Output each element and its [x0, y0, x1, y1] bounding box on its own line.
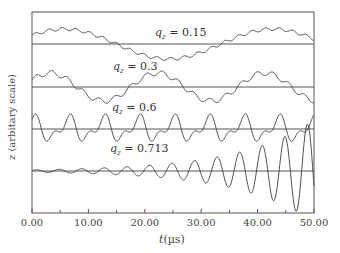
x-tick-label: 40.00: [243, 217, 272, 228]
x-axis-label: t(µs): [159, 233, 185, 246]
plot-frame: [32, 12, 314, 213]
label-qz-0-6: qz = 0.6: [112, 101, 156, 116]
x-tick-label: 0.00: [21, 217, 43, 228]
label-qz-0-3: qz = 0.3: [113, 60, 157, 75]
label-qz-0-713: qz = 0.713: [110, 142, 168, 157]
x-tick-label: 20.00: [130, 217, 159, 228]
traces: [32, 28, 314, 212]
y-axis-label: z (arbitary scale): [6, 74, 17, 160]
trace-q-z-0-713: [32, 124, 314, 211]
baselines: [32, 44, 314, 171]
label-qz-0-15: qz = 0.15: [155, 26, 206, 41]
x-tick-label: 30.00: [187, 217, 216, 228]
x-tick-label: 50.00: [300, 217, 329, 228]
x-ticks: [32, 209, 314, 213]
x-tick-label: 10.00: [74, 217, 103, 228]
trace-q-z-0-6: [32, 114, 314, 141]
